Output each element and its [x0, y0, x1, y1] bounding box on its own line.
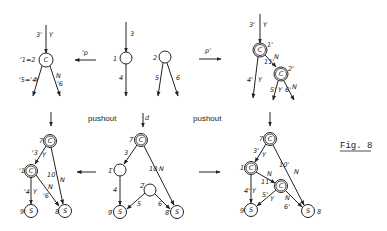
svg-text:11': 11': [264, 58, 274, 66]
graph-bottom-middle: C 7̄ 1̄ 2̄ S 9̄ S 8̄ 3 10 N 4 5 6: [108, 134, 184, 219]
svg-text:4: 4: [113, 186, 117, 194]
svg-text:6: 6: [176, 74, 180, 82]
svg-text:2: 2: [153, 54, 157, 62]
svg-text:N: N: [159, 165, 164, 173]
svg-text:'6: '6: [43, 192, 49, 200]
svg-text:Y: Y: [258, 76, 263, 84]
svg-text:N: N: [285, 194, 290, 202]
svg-text:3: 3: [130, 30, 134, 38]
svg-text:'4: '4: [24, 188, 30, 196]
svg-text:C: C: [139, 136, 144, 144]
svg-text:4': 4': [244, 187, 250, 195]
svg-text:7̄: 7̄: [129, 136, 134, 144]
svg-text:'1: '1: [19, 167, 25, 175]
svg-text:9: 9: [20, 208, 24, 216]
svg-text:5': 5': [270, 86, 276, 94]
svg-text:4': 4': [247, 76, 253, 84]
svg-text:3: 3: [124, 149, 128, 157]
svg-text:5: 5: [155, 74, 159, 82]
graph-bottom-right: C 7 C 1' C S 9 S 8 3' Y 10' N N 11' 4' Y…: [240, 133, 321, 218]
vertical-morphisms: d: [51, 112, 270, 127]
svg-text:5': 5': [262, 191, 268, 199]
figure-caption: Fig. 8: [340, 141, 372, 151]
svg-text:d: d: [145, 114, 150, 122]
svg-text:S: S: [306, 207, 310, 215]
svg-text:Fig. 8: Fig. 8: [340, 141, 372, 151]
svg-text:4: 4: [119, 74, 123, 82]
svg-text:N: N: [56, 72, 61, 80]
svg-text:'5='4: '5='4: [19, 76, 36, 84]
svg-text:2': 2': [288, 65, 294, 73]
svg-text:Y: Y: [252, 187, 257, 195]
svg-text:C: C: [268, 135, 273, 143]
svg-text:C: C: [249, 164, 254, 172]
svg-text:Y: Y: [262, 151, 267, 159]
svg-text:Y: Y: [49, 31, 54, 39]
pushout-label-right: pushout: [193, 114, 222, 123]
svg-text:3': 3': [249, 21, 255, 29]
pushout-label-left: pushout: [88, 114, 117, 123]
svg-text:9: 9: [240, 207, 244, 215]
svg-text:'6: '6: [57, 80, 63, 88]
svg-text:Y: Y: [270, 195, 275, 203]
svg-text:3': 3': [36, 31, 42, 39]
svg-text:C: C: [279, 182, 284, 190]
svg-text:S: S: [175, 208, 179, 216]
svg-text:p': p': [204, 47, 211, 55]
svg-text:C: C: [44, 56, 49, 64]
svg-text:N: N: [292, 83, 297, 91]
svg-text:1': 1': [240, 164, 246, 172]
svg-text:1̄: 1̄: [108, 167, 113, 175]
graph-top-middle: 3 1 4 2 5 6: [113, 22, 180, 96]
svg-text:N: N: [294, 168, 299, 176]
svg-text:6: 6: [158, 200, 162, 208]
svg-text:S: S: [29, 207, 33, 215]
graph-bottom-left: C 7 C '1 S 9 S 8 '3 Y 10 N '4 Y N '6: [19, 135, 72, 218]
svg-text:N: N: [60, 176, 65, 184]
graph-top-right: 3' Y C 1' 4' Y N 11' C 2' 5' Y 6' N: [247, 14, 297, 100]
svg-text:10': 10': [279, 161, 289, 169]
svg-text:'p: 'p: [82, 49, 88, 57]
graph-top-left: C '1=2 3' Y '5='4 Y N '6: [19, 25, 63, 96]
svg-text:10: 10: [149, 165, 157, 173]
svg-text:C: C: [279, 70, 284, 78]
svg-text:Y: Y: [33, 188, 38, 196]
svg-text:11': 11': [261, 178, 271, 186]
svg-text:8: 8: [317, 208, 321, 216]
svg-text:N: N: [274, 53, 279, 61]
svg-text:S: S: [63, 207, 67, 215]
svg-text:10: 10: [47, 171, 55, 179]
svg-text:1: 1: [113, 55, 117, 63]
svg-text:9̄: 9̄: [108, 209, 113, 217]
svg-text:6': 6': [284, 203, 290, 211]
svg-text:'1=2: '1=2: [20, 56, 36, 64]
diagram-canvas: C '1=2 3' Y '5='4 Y N '6 'p 3 1 4 2 5 6 …: [0, 0, 387, 231]
svg-text:N: N: [48, 183, 53, 191]
svg-text:3': 3': [253, 147, 259, 155]
svg-text:N: N: [267, 170, 272, 178]
svg-text:S: S: [249, 206, 253, 214]
svg-text:Y: Y: [42, 151, 47, 159]
svg-text:C: C: [258, 46, 263, 54]
svg-text:8: 8: [55, 208, 59, 216]
svg-text:C: C: [48, 137, 53, 145]
svg-text:Y: Y: [35, 76, 40, 84]
svg-text:Y: Y: [263, 21, 268, 29]
svg-text:C: C: [29, 167, 34, 175]
svg-text:Y: Y: [278, 86, 283, 94]
morphism-p-left: 'p: [75, 49, 96, 60]
svg-text:1': 1': [267, 41, 273, 49]
svg-text:6': 6': [285, 86, 291, 94]
svg-text:'3: '3: [32, 149, 38, 157]
svg-text:S: S: [118, 208, 122, 216]
svg-text:8̄: 8̄: [165, 209, 170, 217]
morphism-p-right: p': [199, 47, 221, 59]
svg-text:5: 5: [137, 200, 141, 208]
